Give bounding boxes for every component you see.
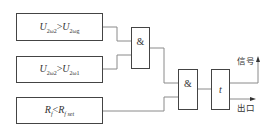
exit-output-label: 出口: [237, 101, 255, 113]
signal-output-label: 信号: [237, 54, 255, 66]
condition-box-2: U2ω2>U2ω1: [16, 56, 103, 83]
and-gate-2: &: [178, 69, 198, 110]
condition-box-1: U2ω2>U2ωg: [16, 13, 103, 41]
condition-text-2: U2ω2>U2ω1: [39, 63, 79, 76]
and-gate-1-label: &: [137, 36, 145, 47]
and-gate-2-label: &: [184, 78, 192, 89]
condition-box-3: Rf<Rf set: [16, 97, 103, 124]
timer-label: t: [219, 84, 222, 95]
timer-block: t: [211, 69, 230, 110]
signal-arrow-icon: [256, 56, 260, 62]
condition-text-3: Rf<Rf set: [45, 104, 74, 117]
and-gate-1: &: [131, 27, 150, 69]
condition-text-1: U2ω2>U2ωg: [39, 21, 79, 34]
